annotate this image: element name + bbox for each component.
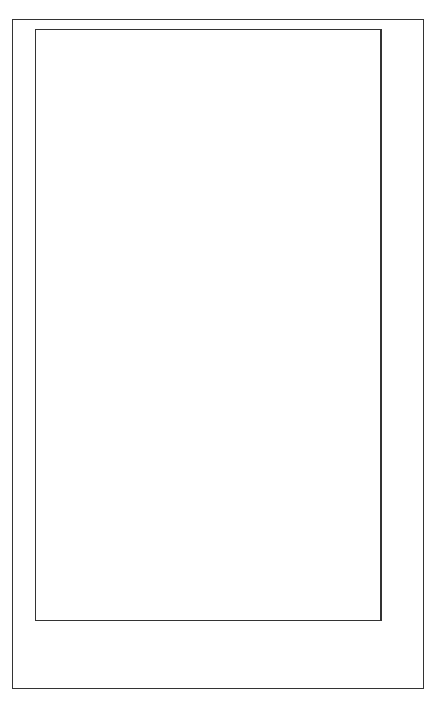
zero-axis-line [380,29,382,621]
plot-area [35,29,381,621]
